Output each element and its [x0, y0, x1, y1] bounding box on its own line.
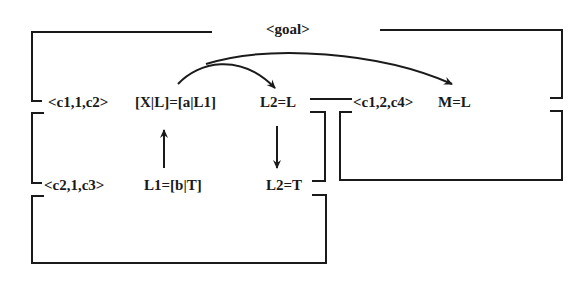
binding-l1-label: L1=[b|T] [144, 178, 202, 193]
binding-m-eq-l-label: M=L [438, 95, 471, 110]
binding-l2-eq-t-label: L2=T [266, 178, 302, 193]
goal-label: <goal> [266, 22, 310, 37]
clause-c1-1-bracket [32, 113, 44, 183]
unification-x-l-label: [X|L]=[a|L1] [135, 95, 216, 110]
clause-c1-2-c4-label: <c1,2,c4> [353, 95, 413, 110]
clause-c1-1-c2-label: <c1,1,c2> [48, 95, 108, 110]
goal-tree-diagram [0, 0, 584, 281]
clause-c2-1-bracket [32, 195, 326, 263]
arrow-to-m-binding [206, 53, 452, 84]
clause-c1-2-box [340, 111, 562, 180]
arrow-to-l2-binding [178, 64, 275, 88]
goal-bracket-right [380, 30, 562, 98]
clause-c2-1-c3-label: <c2,1,c3> [44, 178, 104, 193]
binding-l2-eq-l-label: L2=L [260, 95, 296, 110]
goal-bracket-left [32, 32, 212, 101]
